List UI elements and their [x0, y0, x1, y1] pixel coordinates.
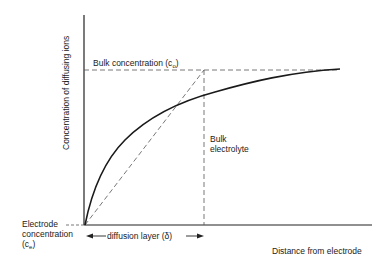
x-axis-label: Distance from electrode [272, 246, 362, 256]
y-axis-label: Concentration of diffusing ions [61, 36, 71, 150]
bulk-concentration-label: Bulk concentration (co) [93, 58, 179, 71]
bulk-electrolyte-label: Bulk electrolyte [210, 134, 249, 154]
arrowhead-right-icon [197, 234, 204, 239]
tangent-line [85, 70, 204, 225]
electrode-concentration-label: Electrode concentration (ce) [22, 219, 73, 252]
arrowhead-left-icon [86, 234, 93, 239]
diffusion-layer-label: diffusion layer (δ) [107, 231, 172, 241]
